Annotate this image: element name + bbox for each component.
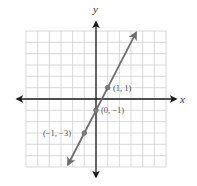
point-1-1 xyxy=(105,85,110,90)
coordinate-plane: x y (1, 1) (0, −1) (−1, −3) xyxy=(0,0,197,186)
point-label-0-neg1: (0, −1) xyxy=(101,105,124,115)
point-label-1-1: (1, 1) xyxy=(113,83,132,93)
x-axis-label: x xyxy=(179,93,185,105)
point-0-neg1 xyxy=(94,108,99,113)
point-label-neg1-neg3: (−1, −3) xyxy=(43,128,71,138)
point-neg1-neg3 xyxy=(82,131,87,136)
y-axis-label: y xyxy=(92,3,98,15)
